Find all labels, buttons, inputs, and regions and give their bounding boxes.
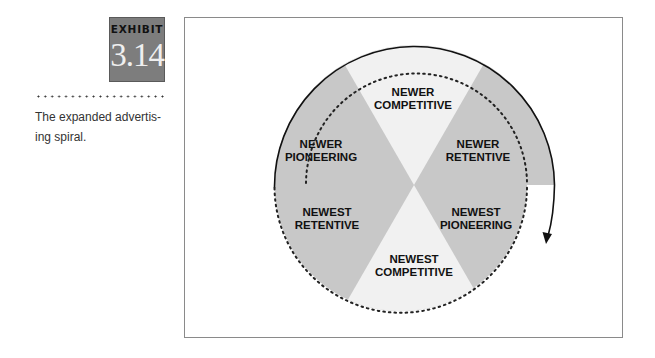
segment-label-line2: RETENTIVE	[295, 219, 360, 231]
segment-label-line2: COMPETITIVE	[375, 266, 453, 278]
segment-newest-retentive: NEWEST RETENTIVE	[295, 206, 360, 231]
segment-label-line2: RETENTIVE	[446, 151, 511, 163]
segment-label-line1: NEWEST	[389, 253, 438, 265]
segment-label-line1: NEWER	[392, 86, 436, 98]
segment-label-line2: COMPETITIVE	[374, 99, 452, 111]
spiral-arrow-line	[548, 185, 555, 236]
segment-label-line2: PIONEERING	[440, 219, 512, 231]
advertising-spiral-diagram: NEWER COMPETITIVE NEWER RETENTIVE NEWEST…	[0, 0, 655, 358]
arrowhead-icon	[543, 232, 553, 244]
segment-label-line1: NEWEST	[451, 206, 500, 218]
segment-label-line1: NEWEST	[302, 206, 351, 218]
segment-label-line2: PIONEERING	[285, 151, 357, 163]
segment-label-line1: NEWER	[457, 138, 501, 150]
segment-label-line1: NEWER	[300, 138, 344, 150]
